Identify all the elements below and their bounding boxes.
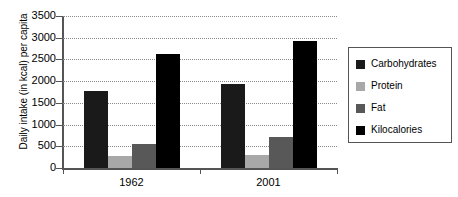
legend-label: Fat — [371, 103, 385, 113]
legend-swatch-icon — [356, 126, 365, 135]
plot-area — [63, 16, 337, 168]
y-axis-tick-label: 2000 — [8, 75, 56, 86]
legend-swatch-icon — [356, 60, 365, 69]
y-axis-tick-label: 3000 — [8, 32, 56, 43]
gridline — [63, 38, 337, 39]
y-axis-tick-label: 1500 — [8, 97, 56, 108]
legend-swatch-icon — [356, 104, 365, 113]
bar-carbohydrates-1962 — [84, 91, 108, 168]
x-axis-label-2001: 2001 — [239, 176, 299, 188]
legend-label: Protein — [371, 81, 403, 91]
bar-protein-2001 — [245, 155, 269, 168]
y-axis-tick-label: 1000 — [8, 119, 56, 130]
legend-item-kilocalories[interactable]: Kilocalories — [356, 123, 422, 137]
y-axis-tick-label: 3500 — [8, 10, 56, 21]
x-axis-label-1962: 1962 — [102, 176, 162, 188]
bar-protein-1962 — [108, 156, 132, 168]
legend-item-protein[interactable]: Protein — [356, 79, 403, 93]
bar-carbohydrates-2001 — [221, 84, 245, 168]
bar-kilocalories-1962 — [156, 54, 180, 168]
chart-legend: CarbohydratesProteinFatKilocalories — [348, 47, 452, 143]
bar-chart: Daily intake (in kcal) per capita 050010… — [0, 0, 458, 197]
bar-fat-1962 — [132, 144, 156, 168]
y-axis-tick-label: 500 — [8, 140, 56, 151]
x-axis-tick-mark — [63, 168, 64, 174]
bar-fat-2001 — [269, 137, 293, 168]
gridline — [63, 16, 337, 17]
legend-swatch-icon — [356, 82, 365, 91]
bar-kilocalories-2001 — [293, 41, 317, 168]
legend-label: Kilocalories — [371, 125, 422, 135]
y-axis-tick-label: 0 — [8, 162, 56, 173]
x-axis-tick-mark — [337, 168, 338, 174]
y-axis-tick-label: 2500 — [8, 53, 56, 64]
legend-item-fat[interactable]: Fat — [356, 101, 385, 115]
legend-label: Carbohydrates — [371, 59, 437, 69]
x-axis-tick-mark — [200, 168, 201, 174]
legend-item-carbohydrates[interactable]: Carbohydrates — [356, 57, 437, 71]
